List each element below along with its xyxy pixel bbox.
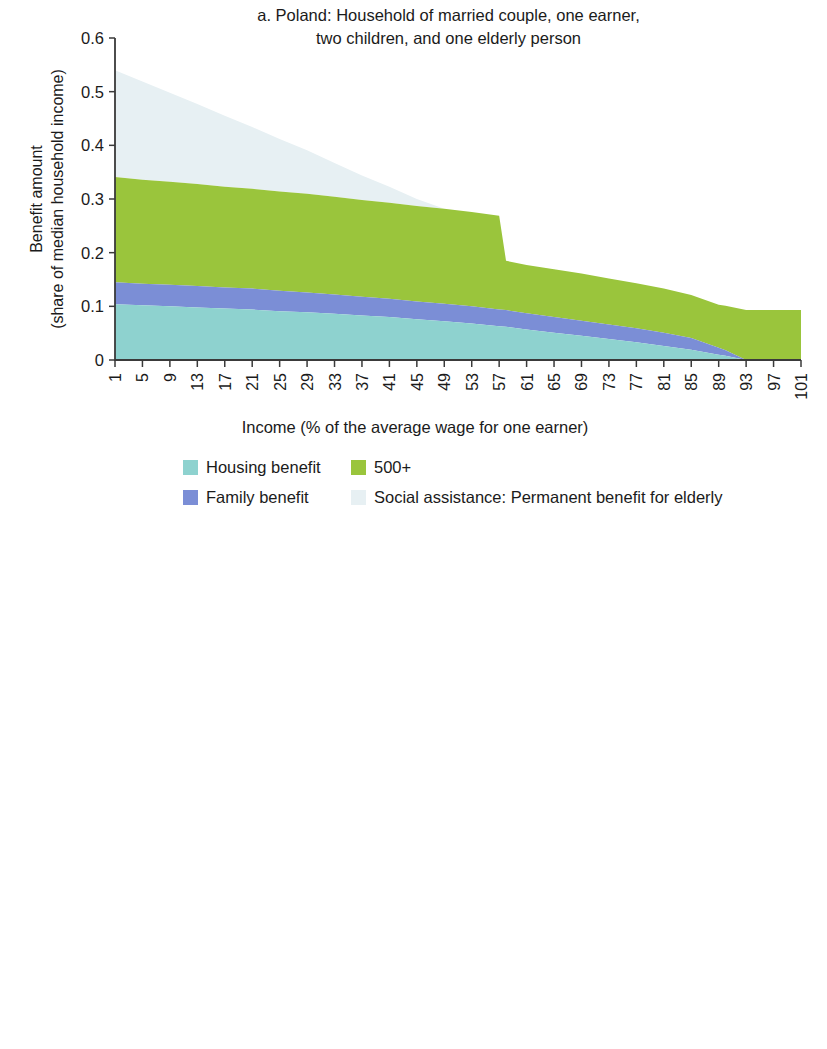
legend-label: Social assistance: Permanent benefit for…	[374, 488, 723, 507]
panel-poland: a. Poland: Household of married couple, …	[0, 0, 827, 530]
legend-item-500plus[interactable]: 500+	[351, 458, 411, 477]
x-tick-label: 49	[436, 373, 453, 391]
y-tick-label: 0.5	[81, 83, 104, 101]
x-tick-label: 57	[491, 373, 508, 391]
y-tick-label: 0.3	[81, 190, 104, 208]
legend-label: Housing benefit	[206, 458, 321, 477]
x-tick-label: 25	[272, 373, 289, 391]
y-tick-label: 0.2	[81, 244, 104, 262]
legend-swatch-family-benefit	[183, 490, 198, 505]
y-tick-label: 0.6	[81, 29, 104, 47]
legend-swatch-housing-benefit	[183, 460, 198, 475]
legend-item-housing-benefit[interactable]: Housing benefit	[183, 458, 351, 477]
y-tick-label: 0.1	[81, 297, 104, 315]
x-tick-label: 85	[683, 373, 700, 391]
legend-row: Family benefit Social assistance: Perman…	[183, 482, 723, 512]
x-tick-label: 5	[134, 373, 151, 382]
x-tick-label: 65	[546, 373, 563, 391]
x-tick-label: 101	[793, 373, 810, 400]
x-tick-label: 69	[573, 373, 590, 391]
legend-label: Family benefit	[206, 488, 309, 507]
panel-brazil: b. Brazil: Tax benefit model; one adult …	[0, 530, 827, 1049]
panel-a-plot: 00.10.20.30.40.50.6159131721252933374145…	[0, 0, 827, 450]
x-tick-label: 29	[299, 373, 316, 391]
y-tick-label: 0	[95, 351, 104, 369]
x-tick-label: 61	[519, 373, 536, 391]
x-tick-label: 93	[738, 373, 755, 391]
x-tick-label: 33	[327, 373, 344, 391]
panel-a-legend: Housing benefit 500+ Family benefit Soci…	[183, 452, 723, 512]
legend-row: Housing benefit 500+	[183, 452, 723, 482]
x-tick-label: 17	[217, 373, 234, 391]
x-tick-label: 73	[601, 373, 618, 391]
legend-swatch-social-assistance	[351, 490, 366, 505]
x-tick-label: 37	[354, 373, 371, 391]
x-tick-label: 97	[766, 373, 783, 391]
x-tick-label: 89	[711, 373, 728, 391]
y-tick-label: 0.4	[81, 136, 104, 154]
x-tick-label: 13	[189, 373, 206, 391]
legend-label: 500+	[374, 458, 411, 477]
x-tick-label: 53	[464, 373, 481, 391]
legend-item-social-assistance[interactable]: Social assistance: Permanent benefit for…	[351, 488, 723, 507]
panel-a-x-axis-title: Income (% of the average wage for one ea…	[20, 418, 810, 437]
x-tick-label: 41	[381, 373, 398, 391]
legend-swatch-500plus	[351, 460, 366, 475]
legend-item-family-benefit[interactable]: Family benefit	[183, 488, 351, 507]
x-tick-label: 1	[107, 373, 124, 382]
x-tick-label: 21	[244, 373, 261, 391]
x-tick-label: 45	[409, 373, 426, 391]
x-tick-label: 9	[162, 373, 179, 382]
x-tick-label: 81	[656, 373, 673, 391]
x-tick-label: 77	[628, 373, 645, 391]
